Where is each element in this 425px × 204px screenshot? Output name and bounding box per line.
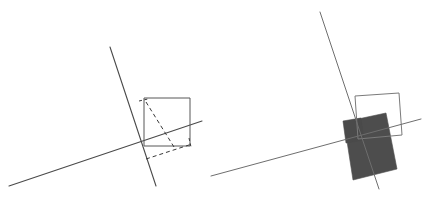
geometry-figure	[0, 0, 425, 204]
figure-container	[0, 0, 425, 204]
